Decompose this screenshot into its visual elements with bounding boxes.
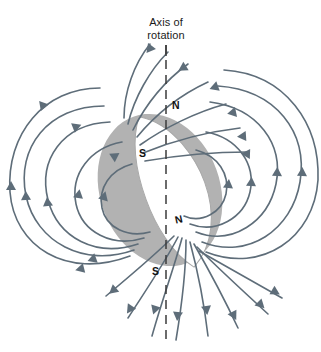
axis-label-line-1: Axis of bbox=[113, 16, 219, 29]
magnetic-field-diagram: Axis of rotation N S N S bbox=[0, 0, 321, 352]
pole-label-north-upper: N bbox=[172, 100, 180, 111]
axis-label-line-2: rotation bbox=[113, 29, 219, 42]
pole-label-south-upper: S bbox=[139, 148, 146, 159]
pole-label-south-lower: S bbox=[152, 266, 159, 277]
axis-of-rotation-label: Axis of rotation bbox=[113, 16, 219, 42]
field-diagram-canvas bbox=[0, 0, 321, 352]
